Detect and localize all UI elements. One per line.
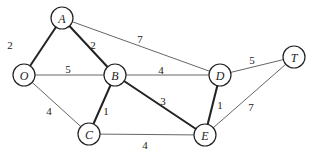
node-c: C [78, 123, 100, 145]
node-label: B [111, 69, 119, 83]
node-label: A [57, 12, 66, 26]
node-d: D [209, 64, 231, 86]
edge-weight-a-b: 2 [90, 39, 96, 51]
edge-weight-b-e: 3 [160, 95, 166, 107]
node-label: E [200, 129, 209, 143]
edge-weight-b-c: 1 [103, 105, 109, 117]
edge-weight-e-t: 7 [248, 101, 254, 113]
node-e: E [194, 124, 216, 146]
node-label: D [215, 69, 225, 83]
edge-weight-o-b: 5 [65, 63, 71, 75]
weight-label-layer: 227545413147 [7, 33, 255, 151]
network-graph: 227545413147 AOBCDET [0, 0, 315, 155]
edge-o-c [24, 75, 89, 134]
node-layer: AOBCDET [13, 7, 305, 146]
edge-weight-d-t: 5 [249, 54, 255, 66]
node-label: O [20, 69, 29, 83]
node-a: A [51, 7, 73, 29]
edge-weight-c-e: 4 [142, 139, 148, 151]
node-o: O [13, 64, 35, 86]
edge-weight-b-d: 4 [158, 64, 164, 76]
node-b: B [104, 64, 126, 86]
edge-c-e [89, 134, 205, 135]
edge-weight-o-a: 2 [7, 39, 13, 51]
edge-weight-a-d: 7 [137, 33, 143, 45]
node-t: T [283, 46, 305, 68]
edge-weight-o-c: 4 [46, 105, 52, 117]
edge-layer [24, 18, 294, 135]
edge-weight-d-e: 1 [217, 99, 223, 111]
node-label: C [85, 128, 94, 142]
edge-a-d [62, 18, 220, 75]
